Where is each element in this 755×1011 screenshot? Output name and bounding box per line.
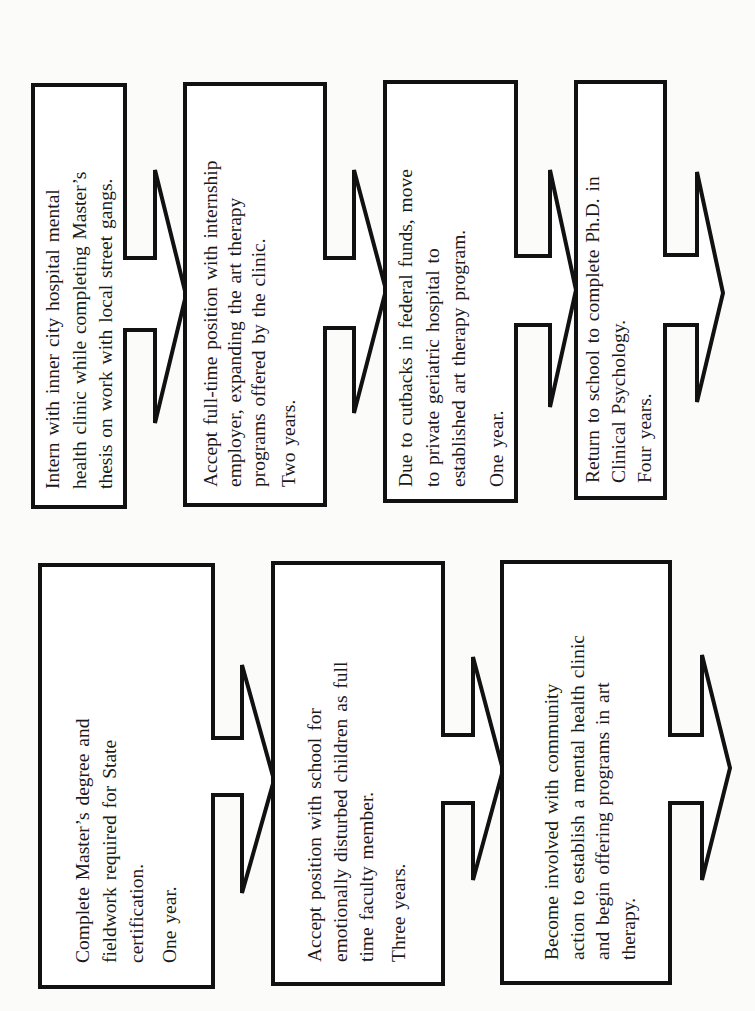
step-line: to private geriatric hospital to [420, 82, 447, 487]
step-line: Due to cutbacks in federal funds, move [393, 82, 420, 487]
step-line: programs offered by the clinic. [247, 84, 271, 487]
step-text-top-2: Accept full-time position with internshi… [185, 84, 325, 505]
step-line: therapy. [616, 562, 642, 960]
step-line: time faculty member. [354, 563, 380, 962]
step-line: Clinical Psychology. [606, 82, 632, 483]
step-line: established art therapy program. [446, 82, 473, 487]
step-line: fieldwork required for State [96, 565, 123, 963]
step-duration: Two years. [277, 84, 301, 487]
step-line: Return to school to complete Ph.D. in [580, 82, 606, 483]
step-line: certification. [123, 565, 150, 963]
step-line: Accept position with school for [302, 563, 328, 962]
step-line: action to establish a mental health clin… [565, 562, 591, 960]
step-duration: One year. [484, 82, 511, 487]
step-line: emotionally disturbed children as full [328, 563, 354, 962]
step-text-bottom-3: Become involved with community action to… [502, 562, 670, 983]
step-line: thesis on work with local street gangs. [93, 85, 120, 489]
step-line: Complete Master’s degree and [69, 565, 96, 963]
step-line: Become involved with community [539, 562, 565, 960]
step-text-top-3: Due to cutbacks in federal funds, move t… [385, 82, 516, 501]
step-line: and begin offering programs in art [590, 562, 616, 960]
career-path-diagram: Intern with inner city hospital mental h… [0, 0, 755, 1011]
step-text-bottom-2: Accept position with school for emotiona… [273, 563, 443, 984]
step-text-bottom-1: Complete Master’s degree and fieldwork r… [40, 565, 213, 987]
step-duration: Four years. [632, 82, 658, 483]
step-duration: One year. [156, 565, 183, 963]
step-line: employer, expanding the art therapy [223, 84, 247, 487]
step-duration: Three years. [386, 563, 412, 962]
step-line: Intern with inner city hospital mental [40, 85, 67, 489]
step-line: Accept full-time position with internshi… [199, 84, 223, 487]
step-text-top-1: Intern with inner city hospital mental h… [33, 85, 125, 507]
step-line: health clinic while completing Master’s [67, 85, 94, 489]
step-text-top-4: Return to school to complete Ph.D. in Cl… [576, 82, 665, 498]
